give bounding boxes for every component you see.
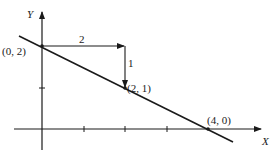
- run-label: 2: [79, 33, 85, 45]
- point-4-0: [206, 127, 210, 131]
- point-0-2: [40, 44, 44, 48]
- point-label-0-2: (0, 2): [2, 45, 26, 58]
- rise-label: 1: [128, 57, 134, 69]
- x-axis: [14, 126, 261, 132]
- point-label-4-0: (4, 0): [207, 114, 231, 127]
- point-label-2-1: (2, 1): [127, 82, 151, 95]
- coordinate-diagram: Y X (0, 2) (2, 1) (4, 0) 2 1: [0, 0, 279, 159]
- y-axis-label: Y: [27, 8, 35, 20]
- x-axis-label: X: [261, 135, 270, 147]
